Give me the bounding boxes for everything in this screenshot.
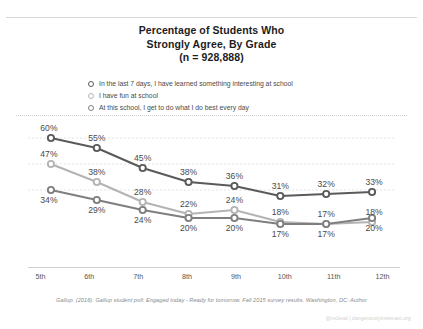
line-chart-svg: 60%55%45%38%36%31%32%33%47%38%28%22%24%1… <box>16 120 407 268</box>
svg-text:20%: 20% <box>180 223 198 233</box>
x-tick-2: 7th <box>114 272 163 286</box>
x-tick-5: 10th <box>260 272 309 286</box>
svg-text:20%: 20% <box>226 223 244 233</box>
legend-circle-icon <box>88 93 94 99</box>
chart-title: Percentage of Students Who Strongly Agre… <box>0 24 423 65</box>
chart-figure: Percentage of Students Who Strongly Agre… <box>0 0 423 329</box>
legend-label-do-best: At this school, I get to do what I do be… <box>99 103 249 113</box>
x-axis-labels: 5th 6th 7th 8th 9th 10th 11th 12th <box>16 272 407 286</box>
svg-text:60%: 60% <box>40 123 58 133</box>
legend-label-fun: I have fun at school <box>99 91 158 101</box>
svg-text:17%: 17% <box>318 229 336 239</box>
legend-item-learned: In the last 7 days, I have learned somet… <box>88 79 388 90</box>
svg-text:18%: 18% <box>272 207 290 217</box>
svg-text:18%: 18% <box>365 207 383 217</box>
svg-text:28%: 28% <box>134 187 152 197</box>
title-line-2: Strongly Agree, By Grade <box>0 38 423 52</box>
svg-text:45%: 45% <box>134 153 152 163</box>
svg-text:17%: 17% <box>272 229 290 239</box>
legend-label-learned: In the last 7 days, I have learned somet… <box>99 79 293 89</box>
x-tick-3: 8th <box>163 272 212 286</box>
svg-text:20%: 20% <box>365 223 383 233</box>
legend-circle-icon <box>88 81 94 87</box>
legend-circle-icon <box>88 105 94 111</box>
legend-divider <box>16 115 407 116</box>
svg-text:55%: 55% <box>88 133 106 143</box>
svg-text:22%: 22% <box>180 199 198 209</box>
svg-text:17%: 17% <box>318 209 336 219</box>
svg-text:29%: 29% <box>88 205 106 215</box>
x-tick-4: 9th <box>212 272 261 286</box>
svg-text:24%: 24% <box>134 215 152 225</box>
svg-text:47%: 47% <box>40 149 58 159</box>
source-caption: Gallup. (2016). Gallup student poll: Eng… <box>0 297 423 303</box>
watermark-credit: @mcleod | dangerouslyirrelevant.org <box>326 315 411 321</box>
x-tick-0: 5th <box>16 272 65 286</box>
x-axis-line <box>28 267 400 268</box>
title-line-1: Percentage of Students Who <box>0 24 423 38</box>
svg-text:31%: 31% <box>272 181 290 191</box>
chart-legend: In the last 7 days, I have learned somet… <box>88 79 388 115</box>
svg-text:32%: 32% <box>318 179 336 189</box>
svg-text:38%: 38% <box>88 167 106 177</box>
svg-text:36%: 36% <box>226 171 244 181</box>
title-line-3: (n = 928,888) <box>0 51 423 65</box>
x-tick-1: 6th <box>65 272 114 286</box>
plot-area: 60%55%45%38%36%31%32%33%47%38%28%22%24%1… <box>16 120 407 268</box>
svg-text:24%: 24% <box>226 195 244 205</box>
legend-item-do-best: At this school, I get to do what I do be… <box>88 103 388 114</box>
svg-text:33%: 33% <box>365 177 383 187</box>
x-tick-6: 11th <box>309 272 358 286</box>
legend-item-fun: I have fun at school <box>88 91 388 102</box>
svg-text:38%: 38% <box>180 167 198 177</box>
svg-text:34%: 34% <box>40 195 58 205</box>
x-tick-7: 12th <box>358 272 407 286</box>
top-divider <box>6 17 417 18</box>
